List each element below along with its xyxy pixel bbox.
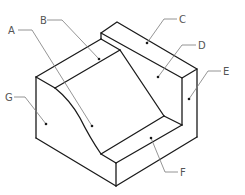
label-c: C <box>179 14 186 25</box>
isometric-drawing: A B C D E F G <box>0 0 245 195</box>
leader-g <box>14 97 46 124</box>
label-d: D <box>198 40 206 51</box>
label-f: F <box>180 167 186 178</box>
leader-e <box>189 71 221 99</box>
leader-c <box>147 19 177 43</box>
label-b: B <box>40 15 47 26</box>
label-e: E <box>223 66 229 77</box>
label-g: G <box>5 92 13 103</box>
face-dots <box>45 42 191 140</box>
leader-f <box>151 138 178 172</box>
leader-a <box>18 30 92 126</box>
part-outline <box>36 22 197 186</box>
labels: A B C D E F G <box>5 14 229 178</box>
label-a: A <box>8 25 15 36</box>
leader-b <box>47 20 99 59</box>
